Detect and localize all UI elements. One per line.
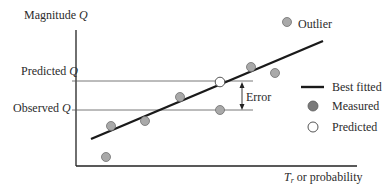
legend-measured-swatch	[308, 101, 318, 111]
measured-point	[216, 106, 225, 115]
best-fit-line	[91, 41, 323, 139]
measured-point	[176, 93, 185, 102]
legend-best-fitted-label: Best fitted	[332, 80, 382, 94]
observed-q-label: Observed Q	[13, 101, 71, 115]
measured-point	[102, 153, 111, 162]
legend-measured-label: Measured	[332, 99, 379, 113]
predicted-point	[215, 77, 225, 87]
measured-point	[107, 122, 116, 131]
error-arrow	[240, 82, 245, 110]
x-axis-label: Tr or probability	[284, 170, 362, 185]
predicted-q-label: Predicted Q	[21, 64, 78, 78]
measured-point	[247, 63, 256, 72]
measured-point	[271, 69, 280, 78]
legend-predicted-swatch	[308, 122, 318, 132]
y-axis-label: Magnitude Q	[24, 8, 88, 22]
legend-predicted-label: Predicted	[332, 120, 377, 134]
error-diagram: Magnitude Q Predicted Q Observed Q Error…	[0, 0, 386, 193]
outlier-label: Outlier	[298, 17, 332, 31]
measured-point	[141, 117, 150, 126]
outlier-point	[283, 18, 292, 27]
error-label: Error	[246, 90, 271, 104]
